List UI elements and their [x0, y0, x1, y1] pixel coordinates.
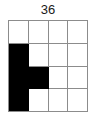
grid-cell-empty [49, 21, 69, 44]
grid-cell-filled [9, 89, 29, 112]
grid-cell-filled [9, 67, 29, 90]
grid-cell-empty [49, 44, 69, 67]
grid-cell-filled [29, 67, 49, 90]
grid-cell-empty [29, 44, 49, 67]
grid-cell-empty [68, 89, 88, 112]
grid-cell-empty [68, 67, 88, 90]
grid-cell-empty [68, 44, 88, 67]
polyomino-grid [8, 20, 88, 112]
grid-cell-empty [49, 89, 69, 112]
grid-cell-empty [49, 67, 69, 90]
grid-cell-empty [29, 21, 49, 44]
grid-cell-empty [68, 21, 88, 44]
grid-cell-filled [9, 44, 29, 67]
polyomino-figure: 36 [0, 0, 96, 122]
figure-label: 36 [0, 1, 96, 18]
grid-cell-empty [9, 21, 29, 44]
grid-cell-empty [29, 89, 49, 112]
